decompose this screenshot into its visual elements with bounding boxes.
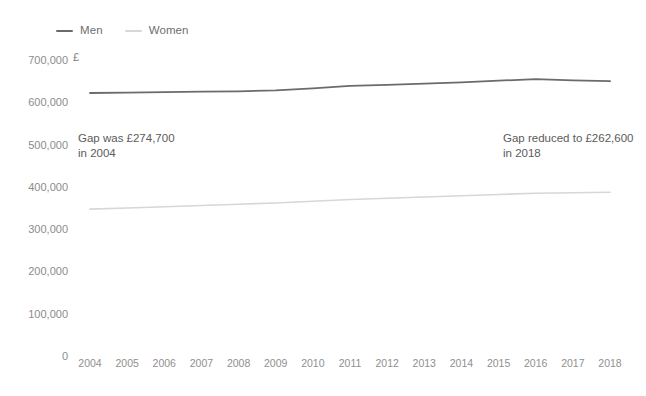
series-line-men: [90, 79, 610, 93]
x-axis-tick: 2012: [375, 358, 398, 369]
x-axis-tick: 2014: [450, 358, 473, 369]
y-axis-tick: 500,000: [28, 139, 68, 150]
y-axis-tick: 400,000: [28, 181, 68, 192]
x-axis-tick: 2007: [190, 358, 213, 369]
y-axis-tick: 300,000: [28, 224, 68, 235]
legend-swatch-women: [125, 30, 142, 32]
y-axis-tick: 200,000: [28, 266, 68, 277]
x-axis-tick: 2006: [153, 358, 176, 369]
line-chart: Men Women £ 700,000600,000500,000400,000…: [0, 0, 646, 396]
chart-legend: Men Women: [56, 23, 189, 39]
legend-item-women[interactable]: Women: [125, 25, 189, 37]
annotation-gap-2018: Gap reduced to £262,600 in 2018: [503, 131, 633, 161]
y-axis-tick: 600,000: [28, 97, 68, 108]
x-axis-tick: 2015: [487, 358, 510, 369]
x-axis-tick: 2004: [78, 358, 101, 369]
annotation-gap-2004: Gap was £274,700 in 2004: [78, 131, 175, 161]
x-axis-tick: 2018: [598, 358, 621, 369]
x-axis-tick: 2016: [524, 358, 547, 369]
x-axis-tick: 2011: [339, 358, 362, 369]
x-axis-tick: 2008: [227, 358, 250, 369]
series-canvas: [78, 60, 628, 356]
x-axis-tick: 2005: [115, 358, 138, 369]
y-axis-tick: 0: [62, 351, 68, 362]
y-axis-tick: 700,000: [28, 55, 68, 66]
legend-label-men: Men: [80, 25, 103, 37]
y-axis: 700,000600,000500,000400,000300,000200,0…: [0, 0, 72, 396]
x-axis-tick: 2017: [561, 358, 584, 369]
x-axis-tick: 2010: [301, 358, 324, 369]
x-axis-tick: 2013: [413, 358, 436, 369]
x-axis: 2004200520062007200820092010201120122013…: [78, 358, 628, 378]
x-axis-tick: 2009: [264, 358, 287, 369]
plot-area: [78, 60, 628, 356]
y-axis-tick: 100,000: [28, 308, 68, 319]
legend-label-women: Women: [149, 25, 189, 37]
series-line-women: [90, 192, 610, 209]
